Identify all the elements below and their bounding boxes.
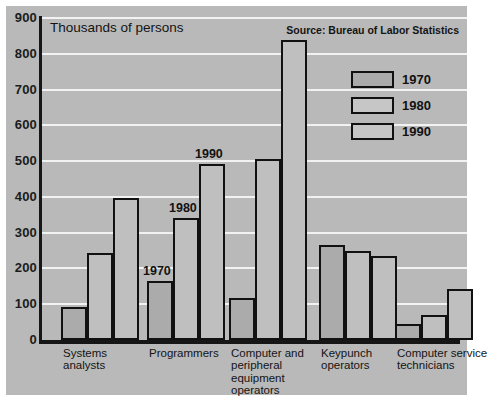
chart-canvas: Thousands of persons Source: Bureau of L…: [6, 6, 467, 395]
bar-1980-2: [173, 218, 199, 340]
category-label-line: Computer service: [397, 347, 492, 359]
y-tick-label-500: 500: [3, 153, 37, 168]
bar-1990-4: [371, 256, 397, 340]
bar-1970-1: [61, 307, 87, 340]
legend-swatch-1990-icon: [351, 123, 394, 140]
category-label-line: peripheral: [231, 359, 317, 371]
category-label-line: operators: [321, 359, 395, 371]
legend-item-1970: 1970: [351, 69, 431, 90]
legend-item-1990: 1990: [351, 121, 431, 142]
bar-1980-4: [345, 251, 371, 340]
category-label-line: operators: [231, 384, 317, 396]
category-label-line: Systems: [63, 347, 143, 359]
y-tick-label-800: 800: [3, 46, 37, 61]
y-axis-line: [39, 16, 42, 342]
category-label-4: Keypunchoperators: [321, 347, 395, 372]
bar-1970-3: [229, 298, 255, 340]
bar-value-annotation-1970: 1970: [143, 264, 171, 278]
bar-1980-5: [421, 315, 447, 340]
category-label-3: Computer andperipheralequipmentoperators: [231, 347, 317, 397]
category-label-5: Computer servicetechnicians: [397, 347, 492, 372]
bar-1990-5: [447, 289, 473, 340]
category-label-2: Programmers: [149, 347, 239, 359]
bar-1990-2: [199, 164, 225, 340]
y-tick-label-600: 600: [3, 117, 37, 132]
bar-value-annotation-1990: 1990: [195, 147, 223, 161]
bar-1970-5: [395, 324, 421, 340]
bar-value-annotation-1980: 1980: [169, 201, 197, 215]
y-tick-label-200: 200: [3, 260, 37, 275]
legend: 1970 1980 1990: [351, 69, 431, 147]
y-tick-label-900: 900: [3, 10, 37, 25]
y-tick-label-100: 100: [3, 296, 37, 311]
y-tick-label-300: 300: [3, 225, 37, 240]
bar-1970-2: [147, 281, 173, 340]
bar-1970-4: [319, 245, 345, 340]
bar-1990-1: [113, 198, 139, 340]
legend-label-1990: 1990: [402, 124, 431, 139]
category-label-line: Keypunch: [321, 347, 395, 359]
legend-label-1980: 1980: [402, 98, 431, 113]
category-label-line: analysts: [63, 359, 143, 371]
category-label-line: Programmers: [149, 347, 239, 359]
category-label-line: technicians: [397, 359, 492, 371]
x-axis-category-labels: SystemsanalystsProgrammersComputer andpe…: [39, 347, 460, 401]
x-axis-line: [39, 340, 460, 344]
category-label-line: equipment: [231, 372, 317, 384]
category-label-line: Computer and: [231, 347, 317, 359]
legend-item-1980: 1980: [351, 95, 431, 116]
legend-swatch-1980-icon: [351, 97, 394, 114]
y-tick-label-700: 700: [3, 82, 37, 97]
plot-area: 9008007006005004003002001000 19701980199…: [39, 18, 460, 340]
category-label-1: Systemsanalysts: [63, 347, 143, 372]
y-tick-label-0: 0: [3, 332, 37, 347]
bar-1980-1: [87, 253, 113, 340]
legend-label-1970: 1970: [402, 72, 431, 87]
bar-1980-3: [255, 159, 281, 340]
bar-1990-3: [281, 40, 307, 340]
legend-swatch-1970-icon: [351, 71, 394, 88]
y-axis-tick-labels: 9008007006005004003002001000: [3, 18, 37, 340]
y-tick-label-400: 400: [3, 189, 37, 204]
